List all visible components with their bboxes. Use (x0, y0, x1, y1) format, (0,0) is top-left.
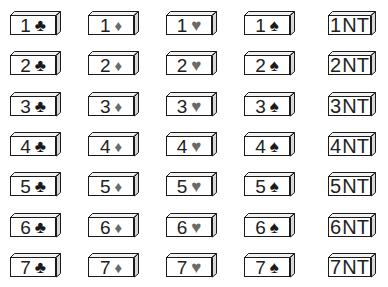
bid-card-2-notrump[interactable]: 2NT (328, 51, 376, 76)
bid-card-1-clubs[interactable]: 1♣ (10, 11, 61, 36)
bid-level: 6 (330, 218, 341, 237)
bid-card-1-hearts[interactable]: 1♥ (166, 11, 217, 36)
bid-card-2-spades[interactable]: 2♠ (244, 51, 295, 76)
card-face: 1♥ (166, 15, 212, 35)
spade-icon: ♠ (270, 259, 279, 276)
notrump-label: NT (342, 97, 369, 116)
bid-card-6-hearts[interactable]: 6♥ (166, 213, 217, 238)
bid-card-4-hearts[interactable]: 4♥ (166, 132, 217, 157)
bid-card-5-notrump[interactable]: 5NT (328, 172, 376, 197)
card-face: 3♥ (166, 96, 212, 116)
bid-card-4-notrump[interactable]: 4NT (328, 132, 376, 157)
bid-level: 3 (100, 97, 111, 116)
heart-icon: ♥ (191, 219, 201, 236)
bid-card-6-spades[interactable]: 6♠ (244, 213, 295, 238)
bid-card-7-notrump[interactable]: 7NT (328, 253, 376, 278)
bid-level: 6 (255, 218, 266, 237)
card-side-bevel (134, 132, 139, 157)
bid-level: 5 (20, 177, 31, 196)
bid-card-3-notrump[interactable]: 3NT (328, 92, 376, 117)
bid-level: 4 (177, 137, 188, 156)
card-face: 3NT (328, 96, 371, 116)
card-side-bevel (56, 11, 61, 36)
heart-icon: ♥ (191, 178, 201, 195)
diamond-icon: ♦ (114, 178, 122, 195)
card-side-bevel (212, 11, 217, 36)
bid-card-5-hearts[interactable]: 5♥ (166, 172, 217, 197)
bid-level: 5 (177, 177, 188, 196)
bid-card-6-notrump[interactable]: 6NT (328, 213, 376, 238)
diamond-icon: ♦ (114, 98, 122, 115)
bid-card-4-diamonds[interactable]: 4♦ (88, 132, 139, 157)
card-face: 6♦ (88, 217, 134, 237)
diamond-icon: ♦ (114, 259, 122, 276)
bid-level: 1 (20, 16, 31, 35)
card-side-bevel (56, 132, 61, 157)
bid-level: 7 (330, 258, 341, 277)
bid-level: 1 (255, 16, 266, 35)
bid-card-7-spades[interactable]: 7♠ (244, 253, 295, 278)
card-side-bevel (290, 132, 295, 157)
notrump-label: NT (342, 218, 369, 237)
card-face: 4♥ (166, 136, 212, 156)
notrump-label: NT (342, 258, 369, 277)
bid-card-3-spades[interactable]: 3♠ (244, 92, 295, 117)
bid-card-6-diamonds[interactable]: 6♦ (88, 213, 139, 238)
bid-card-5-spades[interactable]: 5♠ (244, 172, 295, 197)
bid-card-7-diamonds[interactable]: 7♦ (88, 253, 139, 278)
bid-card-3-diamonds[interactable]: 3♦ (88, 92, 139, 117)
card-side-bevel (371, 11, 376, 36)
spade-icon: ♠ (270, 178, 279, 195)
bid-level: 7 (255, 258, 266, 277)
bid-card-5-diamonds[interactable]: 5♦ (88, 172, 139, 197)
card-face: 7♥ (166, 257, 212, 277)
card-side-bevel (56, 253, 61, 278)
card-side-bevel (212, 253, 217, 278)
club-icon: ♣ (35, 219, 46, 236)
notrump-label: NT (342, 56, 369, 75)
bid-level: 7 (100, 258, 111, 277)
card-face: 5♣ (10, 176, 56, 196)
card-side-bevel (56, 92, 61, 117)
bid-card-6-clubs[interactable]: 6♣ (10, 213, 61, 238)
bid-card-2-diamonds[interactable]: 2♦ (88, 51, 139, 76)
card-side-bevel (134, 213, 139, 238)
bid-card-7-hearts[interactable]: 7♥ (166, 253, 217, 278)
card-face: 2♣ (10, 55, 56, 75)
heart-icon: ♥ (191, 138, 201, 155)
card-face: 3♣ (10, 96, 56, 116)
card-face: 7♦ (88, 257, 134, 277)
bid-level: 7 (20, 258, 31, 277)
card-side-bevel (290, 253, 295, 278)
bid-card-2-clubs[interactable]: 2♣ (10, 51, 61, 76)
spade-icon: ♠ (270, 219, 279, 236)
bid-card-2-hearts[interactable]: 2♥ (166, 51, 217, 76)
card-side-bevel (371, 132, 376, 157)
card-side-bevel (134, 253, 139, 278)
card-face: 2♠ (244, 55, 290, 75)
diamond-icon: ♦ (114, 138, 122, 155)
bid-card-1-diamonds[interactable]: 1♦ (88, 11, 139, 36)
heart-icon: ♥ (191, 98, 201, 115)
card-face: 6♥ (166, 217, 212, 237)
card-side-bevel (371, 51, 376, 76)
card-face: 4♦ (88, 136, 134, 156)
bid-card-4-clubs[interactable]: 4♣ (10, 132, 61, 157)
heart-icon: ♥ (191, 57, 201, 74)
bid-card-3-clubs[interactable]: 3♣ (10, 92, 61, 117)
bid-card-5-clubs[interactable]: 5♣ (10, 172, 61, 197)
bid-level: 2 (255, 56, 266, 75)
bid-level: 4 (20, 137, 31, 156)
bid-card-4-spades[interactable]: 4♠ (244, 132, 295, 157)
bid-card-1-spades[interactable]: 1♠ (244, 11, 295, 36)
bid-level: 4 (330, 137, 341, 156)
bid-level: 2 (20, 56, 31, 75)
club-icon: ♣ (35, 17, 46, 34)
bid-card-1-notrump[interactable]: 1NT (328, 11, 376, 36)
card-face: 5♦ (88, 176, 134, 196)
card-face: 2NT (328, 55, 371, 75)
bid-card-7-clubs[interactable]: 7♣ (10, 253, 61, 278)
bid-card-3-hearts[interactable]: 3♥ (166, 92, 217, 117)
bid-level: 4 (100, 137, 111, 156)
card-side-bevel (134, 92, 139, 117)
